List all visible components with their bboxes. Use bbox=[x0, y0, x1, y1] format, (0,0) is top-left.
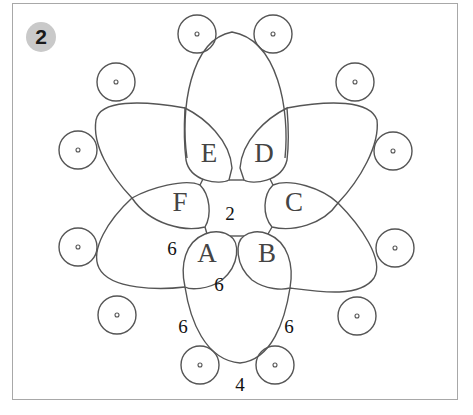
ring-f bbox=[132, 183, 209, 229]
count-ring-a-bottom: 6 bbox=[214, 274, 224, 295]
inner-rings bbox=[132, 108, 338, 289]
ring-label-b: B bbox=[258, 238, 276, 268]
count-chain-right: 6 bbox=[284, 316, 294, 337]
picot bbox=[97, 63, 135, 101]
picot bbox=[256, 346, 294, 384]
tatting-diagram: A B C D E F 2 6 6 6 6 4 bbox=[0, 0, 473, 415]
picot bbox=[374, 132, 412, 170]
outer-chains bbox=[95, 32, 377, 363]
count-center: 2 bbox=[225, 203, 235, 224]
picots bbox=[59, 15, 414, 384]
stitch-counts: 2 6 6 6 6 4 bbox=[167, 203, 294, 395]
ring-label-f: F bbox=[172, 187, 187, 217]
ring-label-a: A bbox=[197, 238, 217, 268]
picot bbox=[338, 297, 376, 335]
picot bbox=[98, 296, 136, 334]
count-ring-a-left: 6 bbox=[167, 238, 177, 259]
chain-bottom bbox=[185, 287, 290, 363]
ring-label-d: D bbox=[254, 138, 274, 168]
ring-label-e: E bbox=[201, 138, 218, 168]
count-chain-left: 6 bbox=[178, 316, 188, 337]
picot bbox=[181, 346, 219, 384]
picot bbox=[59, 228, 97, 266]
picot bbox=[254, 15, 292, 53]
picot bbox=[376, 229, 414, 267]
picot bbox=[178, 15, 216, 53]
ring-label-c: C bbox=[285, 187, 303, 217]
picot bbox=[336, 63, 374, 101]
picot bbox=[59, 131, 97, 169]
count-chain-bottom: 4 bbox=[235, 374, 245, 395]
